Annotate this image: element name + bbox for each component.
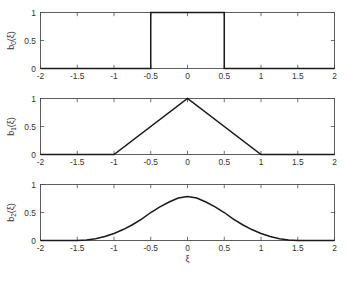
subplot-b2: 0 0.5 1 -2 -1.5 -1 -0.5 0 0.5 1 1.5 2 b2… (6, 180, 337, 264)
xtick-label: -0.5 (144, 157, 159, 167)
xaxis-label: ξ (185, 254, 189, 264)
ytick-label: 1 (31, 180, 36, 190)
xtick-label: -1.5 (70, 157, 85, 167)
ylabel-arg: (ξ) (6, 203, 16, 213)
xtick-labels-b2: -2 -1.5 -1 -0.5 0 0.5 1 1.5 2 (37, 243, 337, 253)
axis-frame-b2 (41, 185, 335, 241)
xtick-label: 0 (185, 71, 190, 81)
ylabel-b1: b1(ξ) (6, 117, 17, 136)
xtick-label: 1 (259, 243, 264, 253)
xtick-label: -0.5 (144, 71, 159, 81)
ytick-label: 0.5 (24, 36, 36, 46)
ytick-label: 0 (31, 150, 36, 160)
ylabel-arg: (ξ) (6, 31, 16, 41)
subplot-b0: 0 0.5 1 -2 -1.5 -1 -0.5 0 0.5 1 1.5 2 b0… (6, 8, 337, 81)
axis-frame-b1 (41, 99, 335, 155)
xtick-label: 2 (332, 157, 337, 167)
bspline-basis-figure: 0 0.5 1 -2 -1.5 -1 -0.5 0 0.5 1 1.5 2 b0… (0, 0, 346, 282)
xtick-label: 1 (259, 71, 264, 81)
xtick-label: 1.5 (292, 243, 304, 253)
xtick-label: 0 (185, 243, 190, 253)
svg-text:b1(ξ): b1(ξ) (6, 117, 17, 136)
xtick-label: 1.5 (292, 71, 304, 81)
xtick-label: -2 (37, 157, 45, 167)
ytick-label: 1 (31, 8, 36, 18)
xtick-label: 0 (185, 157, 190, 167)
xtick-label: 1.5 (292, 157, 304, 167)
xtick-label: 2 (332, 71, 337, 81)
xtick-label: -1.5 (70, 243, 85, 253)
xtick-label: 0.5 (218, 157, 230, 167)
subplot-b1: 0 0.5 1 -2 -1.5 -1 -0.5 0 0.5 1 1.5 2 b1… (6, 94, 337, 167)
xtick-label: -0.5 (144, 243, 159, 253)
ytick-labels-b0: 0 0.5 1 (24, 8, 36, 74)
xtick-label: 2 (332, 243, 337, 253)
figure-container: 0 0.5 1 -2 -1.5 -1 -0.5 0 0.5 1 1.5 2 b0… (0, 0, 346, 282)
xtick-label: -2 (37, 243, 45, 253)
xtick-label: 0.5 (218, 243, 230, 253)
ytick-label: 0.5 (24, 208, 36, 218)
xtick-label: 0.5 (218, 71, 230, 81)
svg-text:b0(ξ): b0(ξ) (6, 31, 17, 50)
xtick-label: -1 (110, 157, 118, 167)
xtick-label: 1 (259, 157, 264, 167)
xtick-label: -1.5 (70, 71, 85, 81)
ytick-labels-b2: 0 0.5 1 (24, 180, 36, 246)
ytick-labels-b1: 0 0.5 1 (24, 94, 36, 160)
ytick-label: 0 (31, 64, 36, 74)
ylabel-b0: b0(ξ) (6, 31, 17, 50)
xtick-label: -2 (37, 71, 45, 81)
ylabel-arg: (ξ) (6, 117, 16, 127)
ytick-label: 0 (31, 236, 36, 246)
axis-frame-b0 (41, 13, 335, 69)
xtick-labels-b1: -2 -1.5 -1 -0.5 0 0.5 1 1.5 2 (37, 157, 337, 167)
xtick-label: -1 (110, 71, 118, 81)
ytick-label: 1 (31, 94, 36, 104)
svg-text:b2(ξ): b2(ξ) (6, 203, 17, 222)
ytick-label: 0.5 (24, 122, 36, 132)
ylabel-b2: b2(ξ) (6, 203, 17, 222)
xtick-label: -1 (110, 243, 118, 253)
xtick-labels-b0: -2 -1.5 -1 -0.5 0 0.5 1 1.5 2 (37, 71, 337, 81)
